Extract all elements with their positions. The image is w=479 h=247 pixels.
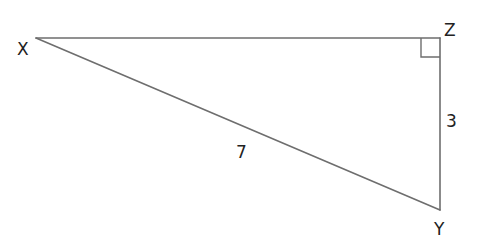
vertex-label-x: X bbox=[17, 39, 29, 59]
triangle-diagram: X Z Y 3 7 bbox=[0, 0, 479, 247]
side-label-zy: 3 bbox=[446, 111, 457, 131]
right-angle-marker-icon bbox=[421, 38, 440, 57]
triangle-svg: X Z Y 3 7 bbox=[0, 0, 479, 247]
side-label-xy: 7 bbox=[236, 142, 247, 162]
side-xy-hypotenuse bbox=[36, 38, 440, 210]
vertex-label-z: Z bbox=[444, 20, 456, 40]
vertex-label-y: Y bbox=[433, 219, 445, 239]
